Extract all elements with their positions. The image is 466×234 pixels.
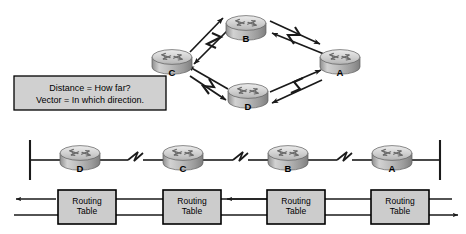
definition-line-2: Vector = In which direction. — [14, 95, 166, 107]
router-a: A — [320, 50, 360, 78]
routing-table-b-label: Routing Table — [267, 197, 325, 216]
definition-text: Distance = How far? Vector = In which di… — [14, 83, 166, 106]
routing-table-c-label: Routing Table — [163, 197, 221, 216]
linear-router-c: C — [163, 146, 203, 174]
linear-topology: D C B A — [30, 140, 440, 180]
serial-link-bolt-dc — [128, 152, 143, 161]
router-a-label: A — [337, 67, 344, 78]
link-c-d — [188, 66, 228, 100]
routing-table-b-line2: Table — [267, 207, 325, 217]
router-c-label: C — [169, 67, 176, 78]
link-d-a — [270, 70, 322, 103]
serial-link-bolt-ba — [337, 152, 352, 161]
router-d: D — [228, 84, 268, 112]
router-b: B — [226, 16, 266, 44]
linear-router-d: D — [60, 146, 100, 174]
routing-table-d-line2: Table — [58, 207, 116, 217]
linear-router-b: B — [268, 146, 308, 174]
routing-table-a-line2: Table — [371, 207, 429, 217]
definition-line-1: Distance = How far? — [14, 83, 166, 95]
diagram-canvas: B C A D — [0, 0, 466, 234]
mesh-topology: B C A D — [152, 16, 360, 112]
router-b-label: B — [243, 33, 250, 44]
linear-router-c-label: C — [180, 163, 187, 174]
linear-router-d-label: D — [77, 163, 84, 174]
serial-link-bolt-cb — [233, 152, 248, 161]
link-c-b — [190, 18, 228, 64]
router-d-label: D — [245, 101, 252, 112]
linear-router-a: A — [372, 146, 412, 174]
link-b-a — [270, 21, 324, 54]
linear-router-a-label: A — [389, 163, 396, 174]
routing-table-c-line2: Table — [163, 207, 221, 217]
routing-table-d-label: Routing Table — [58, 197, 116, 216]
routing-table-a-label: Routing Table — [371, 197, 429, 216]
router-c: C — [152, 50, 192, 78]
linear-router-b-label: B — [285, 163, 292, 174]
